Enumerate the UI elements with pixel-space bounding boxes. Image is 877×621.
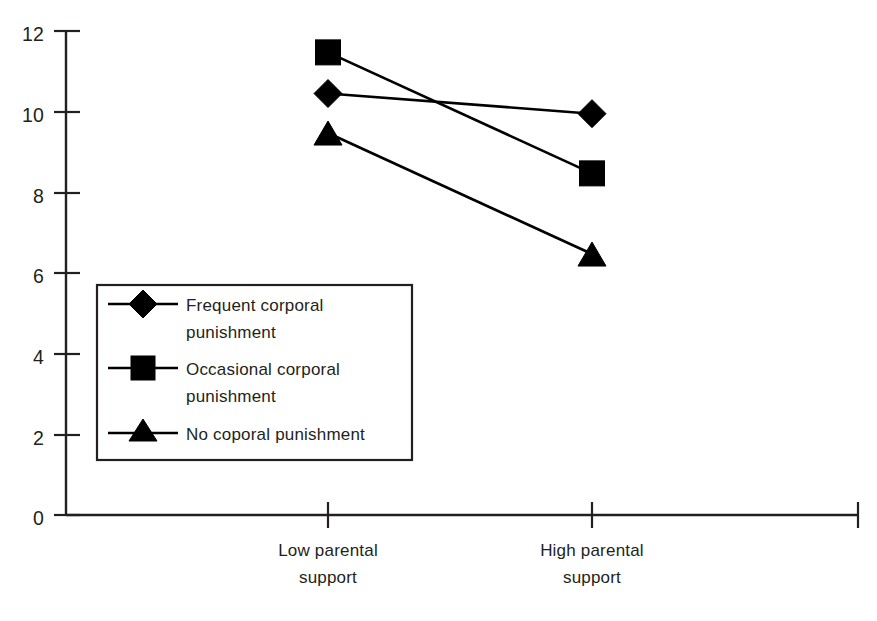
y-tick-label-8: 8 bbox=[33, 185, 44, 207]
series-line-triangle bbox=[328, 133, 592, 254]
series-triangle bbox=[314, 121, 606, 266]
y-tick-label-4: 4 bbox=[33, 346, 44, 368]
legend-label-no-coporal-line1: No coporal punishment bbox=[186, 425, 365, 444]
line-chart-canvas: 12 10 8 6 4 2 0 Low parental support Hig… bbox=[0, 0, 877, 621]
legend-square-icon bbox=[131, 356, 155, 380]
x-category-label-high-line1: High parental bbox=[540, 541, 644, 560]
series-square bbox=[316, 40, 605, 186]
data-point-diamond-low-parental-support bbox=[314, 80, 342, 108]
x-category-label-high-line2: support bbox=[563, 568, 621, 587]
data-point-triangle-high-parental-support bbox=[578, 242, 606, 266]
y-tick-label-2: 2 bbox=[33, 427, 44, 449]
chart-legend: Frequent corporal punishment Occasional … bbox=[97, 285, 412, 460]
y-tick-label-10: 10 bbox=[22, 104, 44, 126]
series-diamond bbox=[314, 80, 606, 128]
data-point-square-high-parental-support bbox=[580, 161, 605, 186]
data-point-square-low-parental-support bbox=[316, 40, 341, 65]
legend-label-occasional-line2: punishment bbox=[186, 387, 276, 406]
legend-label-frequent-line2: punishment bbox=[186, 323, 276, 342]
y-tick-label-6: 6 bbox=[33, 265, 44, 287]
y-tick-label-0: 0 bbox=[33, 507, 44, 529]
x-category-label-low-line2: support bbox=[299, 568, 357, 587]
x-category-label-low-line1: Low parental bbox=[278, 541, 378, 560]
data-point-diamond-high-parental-support bbox=[578, 100, 606, 128]
legend-label-frequent-line1: Frequent corporal bbox=[186, 296, 324, 315]
chart-figure: 12 10 8 6 4 2 0 Low parental support Hig… bbox=[0, 0, 877, 621]
y-tick-label-12: 12 bbox=[22, 23, 44, 45]
series-line-diamond bbox=[328, 94, 592, 114]
series-line-square bbox=[328, 52, 592, 173]
series-layer bbox=[314, 40, 606, 266]
legend-label-occasional-line1: Occasional corporal bbox=[186, 360, 340, 379]
data-point-triangle-low-parental-support bbox=[314, 121, 342, 145]
